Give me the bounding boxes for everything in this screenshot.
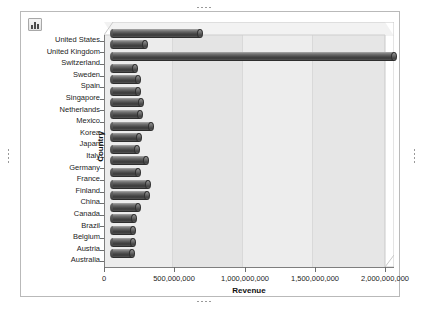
bottom-resize-handle[interactable] (196, 300, 212, 303)
y-axis-tick (100, 41, 104, 42)
bar[interactable] (113, 52, 394, 61)
bar-end-cap (135, 168, 141, 177)
y-axis-label: Japan (20, 140, 100, 148)
bar-end-cap (135, 203, 141, 212)
y-axis-label: Canada (20, 210, 100, 218)
bar[interactable] (113, 214, 134, 223)
y-axis-label: Austria (20, 245, 100, 253)
bar[interactable] (113, 122, 151, 131)
y-axis-label: Spain (20, 82, 100, 90)
y-axis-label: Mexico (20, 117, 100, 125)
bar[interactable] (113, 180, 148, 189)
bar[interactable] (113, 203, 138, 212)
y-axis-tick (100, 76, 104, 77)
bar[interactable] (113, 40, 145, 49)
bar-end-cap (136, 133, 142, 142)
bar[interactable] (113, 133, 139, 142)
y-axis-label: Sweden (20, 71, 100, 79)
y-axis-tick (100, 180, 104, 181)
bar[interactable] (113, 29, 200, 38)
x-axis-label: 2,000,000,000 (361, 274, 409, 283)
bar[interactable] (113, 226, 133, 235)
bar[interactable] (113, 238, 133, 247)
bar-end-cap (135, 87, 141, 96)
y-axis-label: France (20, 175, 100, 183)
y-axis-tick (100, 192, 104, 193)
x-axis-line (104, 267, 394, 268)
bar-end-cap (197, 29, 203, 38)
bar[interactable] (113, 168, 138, 177)
y-axis-labels: United StatesUnited KingdomSwitzerlandSw… (20, 35, 100, 267)
bar-end-cap (138, 98, 144, 107)
y-axis-tick (100, 87, 104, 88)
plot-area: United StatesUnited KingdomSwitzerlandSw… (104, 22, 394, 270)
bar[interactable] (113, 98, 141, 107)
x-axis-tick (104, 267, 105, 272)
bar-body (113, 52, 394, 61)
y-axis-label: United Kingdom (20, 48, 100, 56)
right-resize-handle[interactable] (413, 148, 416, 164)
bar-body (113, 180, 148, 189)
bar[interactable] (113, 191, 147, 200)
bar[interactable] (113, 156, 146, 165)
y-axis-label: Switzerland (20, 59, 100, 67)
y-axis-tick (100, 52, 104, 53)
x-axis-label: 0 (102, 274, 106, 283)
x-axis-label: 1,500,000,000 (291, 274, 339, 283)
bar-end-cap (143, 156, 149, 165)
bar-end-cap (145, 180, 151, 189)
bar[interactable] (113, 145, 137, 154)
y-axis-tick (100, 168, 104, 169)
x-axis-labels: 0500,000,0001,000,000,0001,500,000,0002,… (104, 274, 394, 286)
x-axis-tick (315, 267, 316, 272)
y-axis-tick (100, 261, 104, 262)
bar-body (113, 40, 145, 49)
y-axis-tick (100, 99, 104, 100)
y-axis-tick (100, 215, 104, 216)
y-axis-tick (100, 110, 104, 111)
bar-end-cap (132, 64, 138, 73)
plot-back-wall (104, 35, 385, 267)
bar-end-cap (137, 110, 143, 119)
bar[interactable] (113, 87, 138, 96)
y-axis-tick (100, 122, 104, 123)
x-axis-tick (245, 267, 246, 272)
y-axis-label: Belgium (20, 233, 100, 241)
bar-end-cap (391, 52, 397, 61)
bar-end-cap (129, 249, 135, 258)
bar[interactable] (113, 110, 140, 119)
chart-icon-glyph (31, 21, 39, 29)
chart-frame[interactable]: United StatesUnited KingdomSwitzerlandSw… (20, 11, 400, 297)
y-axis-label: Italy (20, 152, 100, 160)
bar-body (113, 29, 200, 38)
x-axis-label: 1,000,000,000 (221, 274, 269, 283)
bar-body (113, 191, 147, 200)
chart-icon[interactable] (28, 18, 42, 31)
y-axis-tick (100, 226, 104, 227)
top-resize-handle[interactable] (196, 6, 212, 9)
bar-end-cap (131, 214, 137, 223)
y-axis-label: Finland (20, 187, 100, 195)
bar-body (113, 156, 146, 165)
y-axis-label: Korea (20, 129, 100, 137)
bar-end-cap (130, 226, 136, 235)
bar[interactable] (113, 75, 138, 84)
left-resize-handle[interactable] (7, 148, 10, 164)
x-axis-title: Revenue (104, 286, 394, 295)
y-axis-tick (100, 203, 104, 204)
bar[interactable] (113, 64, 135, 73)
bar-end-cap (130, 238, 136, 247)
bar-end-cap (144, 191, 150, 200)
bar-end-cap (134, 145, 140, 154)
y-axis-label: United States (20, 36, 100, 44)
x-axis-tick (385, 267, 386, 272)
x-axis-label: 500,000,000 (153, 274, 195, 283)
bar-body (113, 122, 151, 131)
y-axis-label: Brazil (20, 222, 100, 230)
bar-end-cap (148, 122, 154, 131)
bar-body (113, 98, 141, 107)
y-axis-title: Country (96, 131, 105, 162)
y-axis-label: China (20, 198, 100, 206)
bar[interactable] (113, 249, 132, 258)
x-axis-tick (174, 267, 175, 272)
